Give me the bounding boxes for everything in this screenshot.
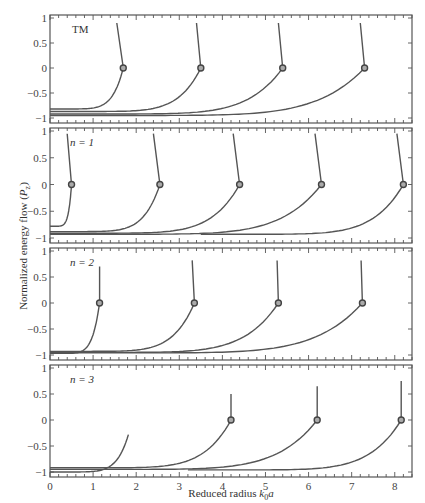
x-tick-label: 6 (306, 480, 312, 492)
x-tick-label: 7 (349, 480, 355, 492)
y-tick-label: 0.5 (33, 271, 47, 283)
y-tick-label: −0.5 (27, 323, 47, 335)
zero-crossing-marker (237, 182, 243, 188)
x-tick-label: 1 (90, 480, 96, 492)
y-axis-title: Normalized energy flow (Pz) (17, 182, 32, 310)
zero-crossing-marker (69, 182, 75, 188)
mode-curve (50, 267, 100, 354)
mode-curve (50, 134, 72, 227)
panels-group: −1−0.500.51TM−1−0.500.51n = 1−1−0.500.51… (27, 12, 412, 492)
panel-label: n = 2 (70, 256, 94, 268)
mode-curve (50, 23, 123, 109)
y-tick-label: −1 (35, 232, 47, 244)
mode-curve (50, 260, 194, 351)
y-tick-label: 0 (42, 297, 48, 309)
y-tick-label: 1 (42, 12, 48, 24)
y-tick-label: −1 (35, 349, 47, 361)
mode-curve (50, 394, 231, 468)
x-axis-title: Reduced radius k0a (188, 487, 274, 502)
x-tick-label: 2 (133, 480, 139, 492)
panel-frame (50, 15, 412, 123)
zero-crossing-marker (191, 300, 197, 306)
panel-label: TM (72, 23, 89, 35)
y-tick-label: 0.5 (33, 388, 47, 400)
panel-3: −1−0.500.51n = 3012345678 (27, 362, 412, 492)
y-tick-label: −1 (35, 112, 47, 124)
figure: −1−0.500.51TM−1−0.500.51n = 1−1−0.500.51… (0, 0, 425, 503)
panel-0: −1−0.500.51TM (27, 12, 412, 124)
x-tick-label: 3 (177, 480, 183, 492)
mode-curve (50, 134, 160, 232)
zero-crossing-marker (362, 65, 368, 71)
panel-2: −1−0.500.51n = 2 (27, 245, 412, 361)
mode-curve (50, 386, 317, 469)
zero-crossing-marker (359, 300, 365, 306)
panel-label: n = 1 (70, 136, 94, 148)
zero-crossing-marker (157, 182, 163, 188)
zero-crossing-marker (400, 182, 406, 188)
zero-crossing-marker (228, 417, 234, 423)
panel-label: n = 3 (70, 373, 94, 385)
panel-1: −1−0.500.51n = 1 (27, 125, 412, 244)
y-tick-label: 0.5 (33, 37, 47, 49)
mode-curve (50, 134, 240, 234)
y-tick-label: 1 (42, 125, 48, 137)
y-tick-label: −0.5 (27, 87, 47, 99)
y-tick-label: 0 (42, 414, 48, 426)
zero-crossing-marker (120, 65, 126, 71)
mode-curve (188, 381, 401, 470)
mode-curve (50, 260, 362, 353)
y-tick-label: 0 (42, 62, 48, 74)
mode-curve (50, 134, 322, 235)
zero-crossing-marker (280, 65, 286, 71)
y-tick-label: 1 (42, 245, 48, 257)
mode-curve (201, 134, 404, 235)
mode-curve (50, 260, 278, 352)
y-tick-label: −1 (35, 466, 47, 478)
y-tick-label: −0.5 (27, 205, 47, 217)
y-tick-label: −0.5 (27, 440, 47, 452)
zero-crossing-marker (198, 65, 204, 71)
mode-curve (50, 435, 128, 472)
zero-crossing-marker (319, 182, 325, 188)
y-tick-label: 1 (42, 362, 48, 374)
y-tick-label: 0 (42, 179, 48, 191)
zero-crossing-marker (275, 300, 281, 306)
x-tick-label: 8 (392, 480, 398, 492)
mode-curve (50, 23, 283, 114)
zero-crossing-marker (97, 300, 103, 306)
x-tick-label: 0 (47, 480, 53, 492)
mode-curve (50, 23, 365, 116)
zero-crossing-marker (398, 417, 404, 423)
y-tick-label: 0.5 (33, 152, 47, 164)
zero-crossing-marker (314, 417, 320, 423)
